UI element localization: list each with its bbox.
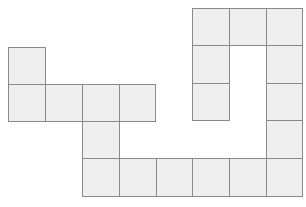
grid-cell [266,83,303,121]
grid-cell [192,45,230,84]
grid-cell [266,120,303,159]
grid-cell [192,83,230,121]
grid-cell [82,158,120,197]
grid-cell [8,84,46,122]
grid-cell [229,8,267,46]
grid-cell [192,158,230,197]
grid-cell [82,121,120,159]
grid-cell [8,47,46,85]
grid-cell [266,45,303,84]
grid-cell [45,84,83,122]
grid-cell [266,8,303,46]
grid-cell [119,84,156,122]
grid-cell [119,158,157,197]
grid-cell [82,84,120,122]
grid-cell [229,158,267,197]
grid-cell [156,158,193,197]
grid-cell [192,8,230,46]
grid-cell [266,158,303,197]
